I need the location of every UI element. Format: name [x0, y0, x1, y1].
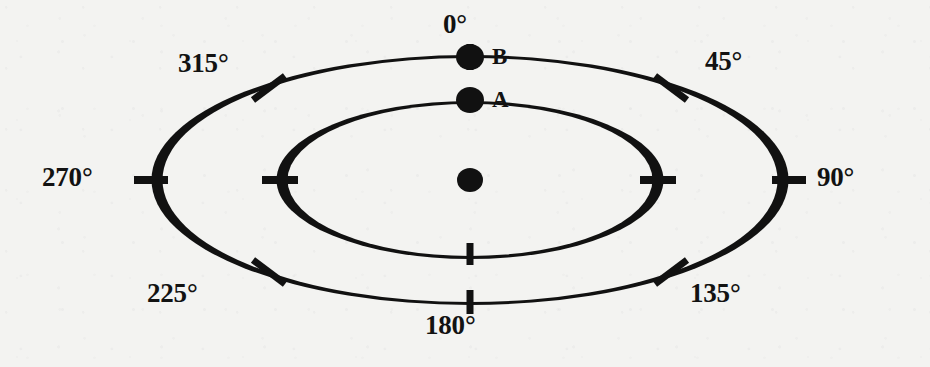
point-b-dot[interactable]	[456, 44, 484, 70]
point-a-label: A	[492, 88, 508, 111]
angle-label-315: 315°	[178, 50, 229, 77]
center-point-marker	[457, 168, 483, 192]
figure-canvas: 0° 45° 90° 135° 180° 225° 270° 315° B A	[0, 0, 930, 367]
angle-label-225: 225°	[147, 280, 198, 307]
angle-label-180: 180°	[425, 312, 476, 339]
angle-label-45: 45°	[705, 48, 742, 75]
angle-label-135: 135°	[690, 280, 741, 307]
angle-label-0: 0°	[443, 11, 467, 38]
point-a-dot[interactable]	[456, 87, 484, 113]
point-b-label: B	[492, 45, 507, 68]
angle-label-90: 90°	[817, 164, 854, 191]
angle-label-270: 270°	[42, 164, 93, 191]
